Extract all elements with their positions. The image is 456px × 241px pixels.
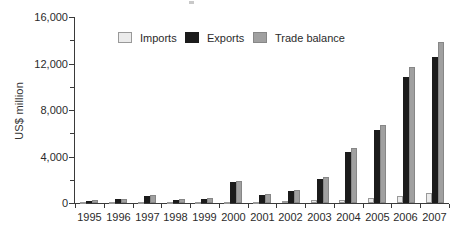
y-axis-major-tick	[69, 17, 74, 18]
x-axis-tick	[219, 204, 220, 208]
trade-balance-bar	[438, 42, 444, 203]
trade-balance-bar	[92, 200, 98, 203]
y-axis-major-tick	[69, 203, 74, 204]
y-axis-tick-label: 4,000	[18, 151, 68, 163]
x-axis-tick	[449, 204, 450, 208]
x-axis-year-label: 2003	[305, 211, 334, 223]
x-axis-year-label: 1998	[161, 211, 190, 223]
x-axis-tick	[305, 204, 306, 208]
plot-area: 04,0008,00012,00016,00019951996199719981…	[75, 17, 449, 203]
x-axis-tick	[133, 204, 134, 208]
y-axis-minor-tick	[70, 87, 74, 88]
x-axis-tick	[420, 204, 421, 208]
trade-balance-bar	[323, 177, 329, 203]
x-axis-year-label: 1995	[75, 211, 104, 223]
x-axis-tick	[391, 204, 392, 208]
x-axis-tick	[75, 204, 76, 208]
y-axis-major-tick	[69, 64, 74, 65]
x-axis-year-label: 2000	[219, 211, 248, 223]
trade-balance-bar	[294, 190, 300, 203]
y-axis-line	[74, 17, 75, 204]
trade-balance-bar	[265, 194, 271, 203]
x-axis-tick	[334, 204, 335, 208]
y-axis-tick-label: 0	[18, 197, 68, 209]
trade-balance-bar	[150, 195, 156, 203]
trade-balance-bar	[380, 125, 386, 203]
x-axis-year-label: 1997	[133, 211, 162, 223]
y-axis-major-tick	[69, 110, 74, 111]
x-axis-tick	[161, 204, 162, 208]
trade-bar-chart-figure: US$ million ImportsExportsTrade balance …	[0, 0, 456, 241]
trade-balance-bar	[351, 148, 357, 203]
y-axis-tick-label: 12,000	[18, 58, 68, 70]
x-axis-year-label: 2007	[420, 211, 449, 223]
y-axis-minor-tick	[70, 40, 74, 41]
x-axis-year-label: 2005	[363, 211, 392, 223]
trade-balance-bar	[121, 199, 127, 203]
x-axis-tick	[104, 204, 105, 208]
y-axis-tick-label: 8,000	[18, 104, 68, 116]
y-axis-tick-label: 16,000	[18, 11, 68, 23]
x-axis-year-label: 2002	[276, 211, 305, 223]
trade-balance-bar	[409, 67, 415, 203]
x-axis-tick	[276, 204, 277, 208]
trade-balance-bar	[179, 199, 185, 203]
x-axis-year-label: 2004	[334, 211, 363, 223]
y-axis-minor-tick	[70, 133, 74, 134]
x-axis-year-label: 1999	[190, 211, 219, 223]
trade-balance-bar	[236, 181, 242, 203]
cropped-artifact	[189, 1, 194, 4]
x-axis-tick	[248, 204, 249, 208]
x-axis-year-label: 1996	[104, 211, 133, 223]
x-axis-line	[74, 203, 449, 204]
y-axis-minor-tick	[70, 180, 74, 181]
x-axis-tick	[363, 204, 364, 208]
x-axis-year-label: 2001	[248, 211, 277, 223]
x-axis-year-label: 2006	[391, 211, 420, 223]
x-axis-tick	[190, 204, 191, 208]
trade-balance-bar	[207, 198, 213, 203]
y-axis-major-tick	[69, 157, 74, 158]
